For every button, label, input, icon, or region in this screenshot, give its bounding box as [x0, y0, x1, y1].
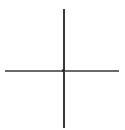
figure-canvas — [0, 0, 125, 130]
axes-intersection-marker — [62, 69, 65, 72]
